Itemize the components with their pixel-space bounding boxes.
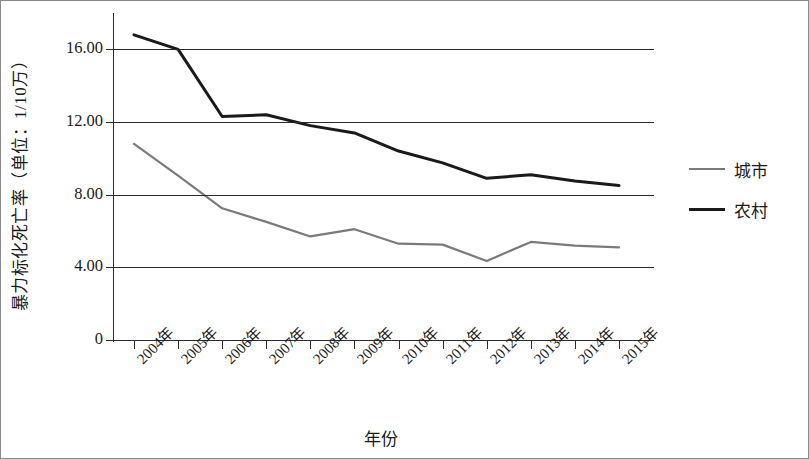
y-axis-tick-labels: 04.008.0012.0016.00 [35, 1, 103, 459]
gridline [113, 122, 654, 123]
gridline [113, 195, 654, 196]
gridline [113, 267, 654, 268]
y-tick-label: 8.00 [43, 186, 103, 203]
gridline [113, 49, 654, 50]
y-tick-label: 4.00 [43, 258, 103, 275]
y-tick-label: 16.00 [43, 40, 103, 57]
x-axis-title: 年份 [1, 425, 761, 450]
y-tick-mark [106, 340, 120, 341]
chart-figure: 暴力标化死亡率（单位：1/10万） 04.008.0012.0016.00 20… [0, 0, 809, 459]
y-tick-label: 12.00 [43, 113, 103, 130]
legend-item[interactable]: 农村 [689, 189, 807, 229]
y-tick-mark [106, 195, 120, 196]
y-tick-mark [106, 267, 120, 268]
chart-legend: 城市农村 [689, 149, 807, 229]
y-tick-mark [106, 49, 120, 50]
series-container [113, 13, 654, 340]
legend-item[interactable]: 城市 [689, 149, 807, 189]
series-line [134, 35, 619, 186]
legend-label: 城市 [734, 157, 768, 182]
y-tick-mark [106, 122, 120, 123]
series-line [134, 144, 619, 261]
legend-label: 农村 [734, 197, 768, 222]
legend-swatch [689, 168, 725, 170]
y-axis-title: 暴力标化死亡率（单位：1/10万） [6, 17, 31, 347]
y-tick-label: 0 [43, 331, 103, 348]
legend-swatch [689, 208, 725, 211]
plot-area [113, 13, 654, 340]
